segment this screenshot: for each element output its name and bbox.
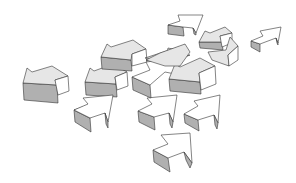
arrow-face bbox=[85, 82, 117, 97]
arrow-left-far-icon bbox=[23, 66, 69, 103]
arrow-upright-left-icon bbox=[74, 95, 113, 132]
arrows-illustration bbox=[0, 0, 296, 183]
arrow-far-right-icon bbox=[251, 27, 281, 52]
arrow-top-center-icon bbox=[168, 15, 203, 36]
arrow-upright-bottom-icon bbox=[153, 133, 192, 172]
arrows-svg bbox=[0, 0, 296, 183]
arrow-left-upper-icon bbox=[101, 40, 147, 71]
arrow-upright-center-icon bbox=[138, 95, 177, 130]
arrow-face bbox=[23, 83, 58, 103]
arrow-upright-right-icon bbox=[184, 95, 220, 131]
arrow-face bbox=[199, 42, 223, 50]
